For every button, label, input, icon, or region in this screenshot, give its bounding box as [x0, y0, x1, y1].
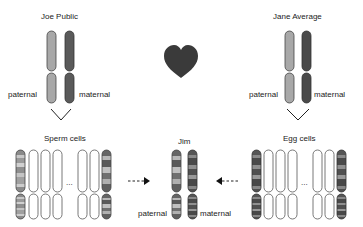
- mother-paternal-label: paternal: [249, 90, 278, 99]
- father-chromosome-pair: [47, 31, 74, 103]
- father-maternal-label: maternal: [79, 90, 110, 99]
- mother-name: Jane Average: [273, 12, 322, 21]
- heart-icon: [164, 45, 198, 78]
- egg-cells-group: [252, 150, 346, 219]
- father-v-arrow: [51, 109, 71, 120]
- egg-cells-label: Egg cells: [283, 134, 315, 143]
- father-paternal-label: paternal: [8, 90, 37, 99]
- mother-v-arrow: [287, 109, 309, 120]
- egg-to-child-arrow-icon: [216, 177, 238, 185]
- egg-ellipsis: ...: [301, 178, 308, 187]
- father-name: Joe Public: [41, 12, 78, 21]
- child-name: Jim: [178, 137, 190, 146]
- sperm-to-child-arrow-icon: [128, 177, 150, 185]
- sperm-ellipsis: ...: [66, 178, 73, 187]
- child-paternal-label: paternal: [138, 209, 167, 218]
- sperm-cells-label: Sperm cells: [44, 134, 86, 143]
- inheritance-diagram: [0, 0, 363, 227]
- child-maternal-label: maternal: [200, 209, 231, 218]
- mother-chromosome-pair: [285, 31, 311, 103]
- mother-maternal-label: maternal: [314, 90, 345, 99]
- child-chromosome-pair: [172, 150, 197, 219]
- sperm-cells-group: [16, 150, 111, 219]
